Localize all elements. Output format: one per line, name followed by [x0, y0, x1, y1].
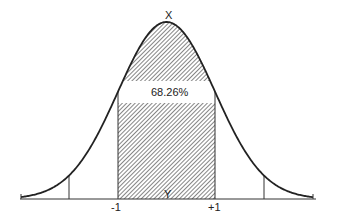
- center-label: Y: [164, 189, 171, 200]
- area-percentage-label: 68.26%: [151, 87, 188, 98]
- minus-one-label: -1: [111, 202, 121, 213]
- shaded-area: [118, 22, 215, 199]
- plus-one-label: +1: [208, 202, 221, 213]
- peak-label: X: [165, 10, 172, 21]
